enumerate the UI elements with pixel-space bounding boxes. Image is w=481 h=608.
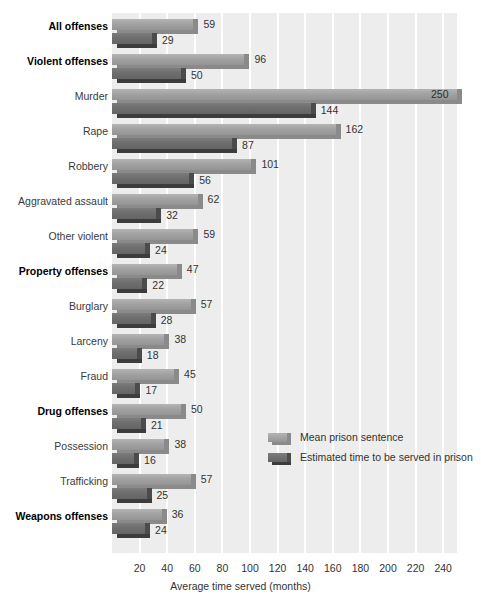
chart-row: Murder250144: [0, 86, 481, 121]
bar-value-label: 24: [155, 245, 167, 256]
bar-value-label: 59: [203, 229, 215, 240]
bar-mean-sentence: [112, 369, 174, 380]
bar-mean-sentence: [112, 439, 164, 450]
bar-group: 4722: [112, 261, 457, 296]
bar-value-label: 38: [174, 439, 186, 450]
category-label: Larceny: [0, 335, 108, 347]
bar-value-label: 87: [242, 140, 254, 151]
x-tick-label: 240: [423, 562, 463, 574]
bar-mean-sentence: [112, 229, 193, 240]
legend-swatch-served-icon: [268, 453, 287, 462]
bar-value-label: 17: [145, 385, 157, 396]
bar-group: 5725: [112, 471, 457, 506]
bar-mean-sentence: [112, 334, 164, 345]
bar-mean-sentence: [112, 474, 191, 485]
bar-value-label: 144: [321, 105, 339, 116]
bar-time-served: [112, 348, 137, 359]
bar-group: 5728: [112, 296, 457, 331]
chart-row: Burglary5728: [0, 296, 481, 331]
legend-item-served: Estimated time to be served in prison: [268, 451, 468, 471]
category-label: Fraud: [0, 370, 108, 382]
bar-mean-sentence: [112, 264, 177, 275]
chart-legend: Mean prison sentence Estimated time to b…: [268, 431, 468, 471]
bar-value-label: 96: [254, 54, 266, 65]
chart-row: Robbery10156: [0, 156, 481, 191]
chart-row: Weapons offenses3624: [0, 506, 481, 541]
bar-value-label: 57: [201, 299, 213, 310]
bar-mean-sentence: [112, 159, 251, 170]
category-label: Burglary: [0, 300, 108, 312]
bar-value-label: 50: [191, 70, 203, 81]
rows-layer: All offenses5929Violent offenses9650Murd…: [0, 0, 481, 608]
bar-value-label: 47: [187, 264, 199, 275]
bar-value-label: 22: [152, 280, 164, 291]
bar-group: 3624: [112, 506, 457, 541]
bar-mean-sentence: [112, 124, 336, 135]
chart-row: All offenses5929: [0, 16, 481, 51]
bar-mean-sentence: [112, 54, 244, 65]
bar-time-served: [112, 383, 135, 394]
bar-time-served: [112, 173, 189, 184]
bar-chart: All offenses5929Violent offenses9650Murd…: [0, 0, 481, 608]
bar-value-label: 32: [166, 210, 178, 221]
bar-value-label: 38: [174, 334, 186, 345]
category-label: All offenses: [0, 20, 108, 32]
bar-mean-sentence: [112, 404, 181, 415]
bar-value-label: 162: [346, 124, 364, 135]
bar-value-label: 28: [161, 315, 173, 326]
bar-mean-sentence: [112, 19, 193, 30]
bar-group: 4517: [112, 366, 457, 401]
bar-group: 16287: [112, 121, 457, 156]
bar-group: 5924: [112, 226, 457, 261]
bar-time-served: [112, 488, 147, 499]
bar-value-label: 24: [155, 525, 167, 536]
bar-value-label: 45: [184, 369, 196, 380]
bar-group: 6232: [112, 191, 457, 226]
bar-value-label: 16: [144, 455, 156, 466]
bar-time-served: [112, 278, 142, 289]
chart-row: Property offenses4722: [0, 261, 481, 296]
bar-time-served: [112, 453, 134, 464]
legend-swatch-mean-icon: [268, 433, 287, 442]
chart-row: Aggravated assault6232: [0, 191, 481, 226]
bar-value-label: 50: [191, 404, 203, 415]
bar-value-label: 57: [201, 474, 213, 485]
category-label: Other violent: [0, 230, 108, 242]
bar-value-label: 62: [208, 194, 220, 205]
bar-value-label: 18: [147, 350, 159, 361]
category-label: Weapons offenses: [0, 510, 108, 522]
bar-mean-sentence: [112, 509, 162, 520]
bar-value-label: 36: [172, 509, 184, 520]
bar-value-label: 56: [199, 175, 211, 186]
legend-item-mean: Mean prison sentence: [268, 431, 468, 451]
bar-value-label: 250: [431, 89, 449, 100]
bar-time-served: [112, 138, 232, 149]
chart-row: Fraud4517: [0, 366, 481, 401]
bar-group: 10156: [112, 156, 457, 191]
x-axis-ticks: 20406080100120140160180200220240: [0, 562, 481, 576]
bar-value-label: 101: [261, 159, 279, 170]
bar-time-served: [112, 243, 145, 254]
category-label: Robbery: [0, 160, 108, 172]
chart-row: Other violent5924: [0, 226, 481, 261]
bar-mean-sentence: [112, 299, 191, 310]
legend-label-mean: Mean prison sentence: [300, 431, 403, 444]
category-label: Property offenses: [0, 265, 108, 277]
x-axis-title: Average time served (months): [0, 580, 481, 592]
bar-time-served: [112, 208, 156, 219]
category-label: Drug offenses: [0, 405, 108, 417]
chart-row: Larceny3818: [0, 331, 481, 366]
bar-value-label: 29: [162, 35, 174, 46]
category-label: Possession: [0, 440, 108, 452]
category-label: Murder: [0, 90, 108, 102]
chart-row: Rape16287: [0, 121, 481, 156]
bar-time-served: [112, 68, 181, 79]
bar-time-served: [112, 103, 311, 114]
chart-row: Violent offenses9650: [0, 51, 481, 86]
bar-group: 250144: [112, 86, 457, 121]
bar-mean-sentence: [112, 89, 457, 100]
bar-time-served: [112, 33, 152, 44]
bar-time-served: [112, 523, 145, 534]
bar-value-label: 59: [203, 19, 215, 30]
chart-row: Trafficking5725: [0, 471, 481, 506]
